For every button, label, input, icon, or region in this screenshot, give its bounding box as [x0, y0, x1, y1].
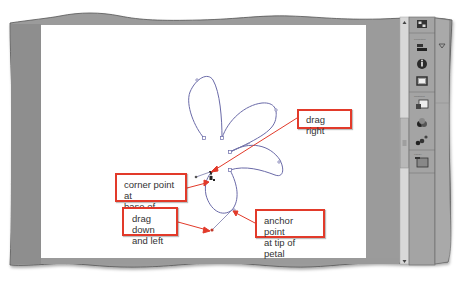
callout-text-line2: and left	[132, 235, 168, 246]
info-icon[interactable]	[417, 59, 427, 69]
callout-text-line1: anchor point	[264, 215, 316, 237]
panel-layout-icon[interactable]	[417, 20, 427, 28]
callout-anchor-point: anchor point at tip of petal	[255, 209, 325, 238]
group-label-properties: Properties	[414, 38, 426, 41]
application-window: Properties Swatches Library	[0, 0, 463, 282]
callout-text-line1: corner point at	[124, 179, 178, 201]
group-label-swatches: Swatches	[414, 95, 426, 98]
callout-drag-down-left: drag down and left	[122, 207, 178, 236]
handle-point[interactable]	[195, 176, 198, 179]
callout-drag-right: drag right	[297, 109, 352, 129]
canvas-border-left	[11, 24, 41, 264]
callout-corner-point: corner point at base of petal	[115, 173, 187, 202]
group-label-library: Library	[414, 153, 422, 156]
callout-text-line2: at tip of petal	[264, 237, 316, 259]
library-icon[interactable]	[415, 157, 428, 167]
collapsed-panel[interactable]	[435, 18, 451, 264]
callout-text-line1: drag down	[132, 213, 168, 235]
callout-text: drag right	[306, 114, 325, 136]
